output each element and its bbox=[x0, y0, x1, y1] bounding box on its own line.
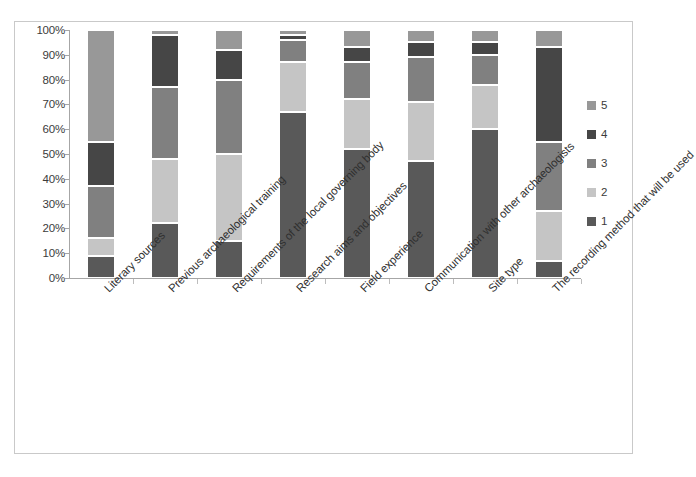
bar-group bbox=[88, 30, 114, 278]
bar-segment-series-5 bbox=[280, 30, 306, 35]
bar-segment-series-2 bbox=[152, 159, 178, 223]
bar-segment-series-2 bbox=[472, 85, 498, 130]
bar-segment-series-5 bbox=[88, 30, 114, 142]
bar-segment-series-4 bbox=[88, 142, 114, 187]
bar-segment-series-2 bbox=[344, 99, 370, 149]
bar-segment-series-5 bbox=[216, 30, 242, 50]
bar-segment-series-3 bbox=[408, 57, 434, 102]
bar-segment-series-2 bbox=[408, 102, 434, 162]
bar-segment-series-4 bbox=[344, 47, 370, 62]
y-axis-tick-80: 80% bbox=[43, 74, 65, 86]
x-axis-category-labels: Literary sourcesPrevious archaeological … bbox=[69, 284, 629, 454]
legend-item-3[interactable]: 3 bbox=[587, 158, 607, 170]
y-axis-tick-30: 30% bbox=[43, 198, 65, 210]
bar-segment-series-2 bbox=[280, 62, 306, 112]
legend-label: 4 bbox=[601, 129, 607, 141]
bar-stack bbox=[88, 30, 114, 278]
bar-segment-series-4 bbox=[216, 50, 242, 80]
bar-segment-series-3 bbox=[88, 186, 114, 238]
bar-segment-series-3 bbox=[280, 40, 306, 62]
bar-segment-series-5 bbox=[344, 30, 370, 47]
bar-segment-series-4 bbox=[536, 47, 562, 141]
bar-segment-series-1 bbox=[536, 261, 562, 278]
y-tick-mark bbox=[65, 278, 70, 279]
plot-area: 100%90%80%70%60%50%40%30%20%10%0% Litera… bbox=[15, 22, 634, 455]
bar-segment-series-2 bbox=[88, 238, 114, 255]
bar-segment-series-1 bbox=[472, 129, 498, 278]
bar-segment-series-3 bbox=[344, 62, 370, 99]
bar-segment-series-3 bbox=[152, 87, 178, 159]
y-axis-tick-90: 90% bbox=[43, 49, 65, 61]
y-axis-tick-0: 0% bbox=[49, 272, 65, 284]
legend-swatch-icon bbox=[587, 130, 596, 139]
bar-segment-series-4 bbox=[472, 42, 498, 54]
legend-swatch-icon bbox=[587, 217, 596, 226]
bar-segment-series-3 bbox=[472, 55, 498, 85]
bar-segment-series-2 bbox=[536, 211, 562, 261]
chart-figure-frame: 100%90%80%70%60%50%40%30%20%10%0% Litera… bbox=[14, 21, 633, 454]
legend-swatch-icon bbox=[587, 101, 596, 110]
legend-label: 5 bbox=[601, 100, 607, 112]
y-axis-tick-50: 50% bbox=[43, 148, 65, 160]
bar-segment-series-4 bbox=[408, 42, 434, 57]
legend-item-1[interactable]: 1 bbox=[587, 216, 607, 228]
legend-label: 2 bbox=[601, 187, 607, 199]
legend-item-4[interactable]: 4 bbox=[587, 129, 607, 141]
legend-item-2[interactable]: 2 bbox=[587, 187, 607, 199]
chart-legend: 54321 bbox=[587, 100, 631, 235]
bar-segment-series-3 bbox=[216, 80, 242, 154]
legend-swatch-icon bbox=[587, 159, 596, 168]
y-axis-tick-100: 100% bbox=[36, 24, 65, 36]
y-axis-tick-60: 60% bbox=[43, 123, 65, 135]
bar-segment-series-1 bbox=[408, 161, 434, 278]
y-axis-tick-40: 40% bbox=[43, 173, 65, 185]
y-axis-tick-70: 70% bbox=[43, 98, 65, 110]
bar-segment-series-1 bbox=[280, 112, 306, 278]
bar-segment-series-4 bbox=[152, 35, 178, 87]
legend-swatch-icon bbox=[587, 188, 596, 197]
y-axis-tick-labels: 100%90%80%70%60%50%40%30%20%10%0% bbox=[21, 30, 65, 278]
bar-segment-series-5 bbox=[472, 30, 498, 42]
legend-label: 1 bbox=[601, 216, 607, 228]
y-axis-tick-20: 20% bbox=[43, 222, 65, 234]
bar-segment-series-5 bbox=[408, 30, 434, 42]
legend-item-5[interactable]: 5 bbox=[587, 100, 607, 112]
bar-segment-series-5 bbox=[536, 30, 562, 47]
y-axis-tick-10: 10% bbox=[43, 247, 65, 259]
bar-segment-series-1 bbox=[88, 256, 114, 278]
legend-label: 3 bbox=[601, 158, 607, 170]
bar-segment-series-4 bbox=[280, 35, 306, 40]
bar-segment-series-5 bbox=[152, 30, 178, 35]
